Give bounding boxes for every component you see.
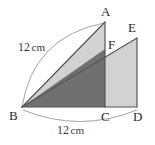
dimension-arc-base-BD [23, 110, 137, 122]
region-overlap-BCF [22, 49, 105, 107]
geometry-figure: A B C D E F 12cm 12cm [0, 0, 155, 145]
vertex-label-E: E [128, 20, 136, 35]
vertex-label-A: A [101, 4, 111, 19]
vertex-label-D: D [133, 109, 142, 124]
dimension-label-base-BD: 12cm [57, 123, 84, 137]
figure-canvas: A B C D E F 12cm 12cm [0, 0, 155, 145]
vertex-label-C: C [101, 109, 110, 124]
dimension-label-hypotenuse-BA: 12cm [18, 40, 45, 54]
vertex-label-F: F [108, 37, 115, 52]
vertex-label-B: B [9, 108, 18, 123]
